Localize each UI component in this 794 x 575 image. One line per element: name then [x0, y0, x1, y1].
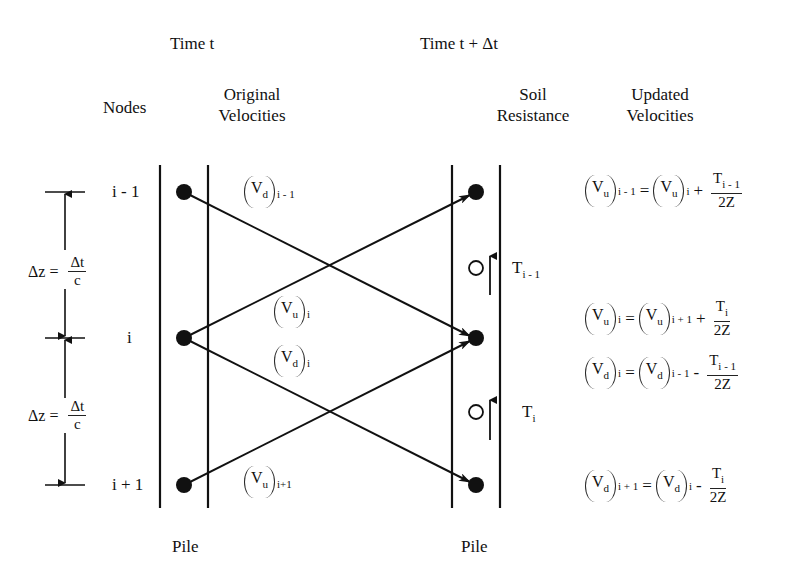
- node-left-i: [176, 330, 192, 346]
- dimension-label-upper: Δz = Δt c: [28, 254, 86, 289]
- node-right-ip1: [468, 477, 484, 493]
- node-left-ip1: [176, 477, 192, 493]
- arrow-vd-i: [184, 338, 470, 482]
- header-time-t: Time t: [170, 34, 214, 54]
- dimension-lines: [45, 192, 85, 485]
- wave-label-vd-i: Vdi: [274, 345, 310, 377]
- header-time-t-dt: Time t + Δt: [420, 34, 498, 54]
- nodes-left: [176, 184, 192, 493]
- node-right-im1: [468, 184, 484, 200]
- header-nodes: Nodes: [103, 97, 146, 118]
- equation-vd-ip1: Vdi + 1 = Vdi - Ti2Z: [585, 465, 726, 506]
- arrow-vu-ip1: [184, 341, 470, 485]
- soil-circle-icon: [469, 405, 483, 419]
- nodes-right: [468, 184, 484, 493]
- footer-pile-left: Pile: [172, 537, 198, 557]
- arrow-vu-i: [184, 195, 470, 338]
- header-updated-velocities: Updated Velocities: [608, 84, 712, 126]
- wave-label-vu-ip1: Vui+1: [244, 466, 292, 498]
- soil-force-label-upper: Ti - 1: [512, 258, 540, 284]
- wave-arrows: [184, 192, 470, 485]
- node-right-i: [468, 330, 484, 346]
- soil-circle-icon: [469, 261, 483, 275]
- soil-force-label-lower: Ti: [522, 402, 535, 428]
- header-soil-resistance: Soil Resistance: [488, 84, 578, 126]
- header-original-velocities: Original Velocities: [210, 84, 294, 126]
- equation-vu-im1: Vui - 1 = Vui + Ti - 12Z: [585, 170, 742, 211]
- equation-vd-i: Vdi = Vdi - 1 - Ti - 12Z: [585, 352, 738, 393]
- node-label-i: i: [127, 328, 132, 348]
- footer-pile-right: Pile: [461, 537, 487, 557]
- wave-label-vu-i: Vui: [274, 296, 310, 328]
- node-label-im1: i - 1: [112, 182, 139, 202]
- equation-vu-i: Vui = Vui + 1 + Ti2Z: [585, 298, 730, 339]
- wave-label-vd-im1: Vdi - 1: [244, 176, 295, 208]
- node-left-im1: [176, 184, 192, 200]
- arrow-vd-im1: [184, 192, 470, 336]
- dimension-label-lower: Δz = Δt c: [28, 398, 86, 433]
- node-label-ip1: i + 1: [112, 475, 143, 495]
